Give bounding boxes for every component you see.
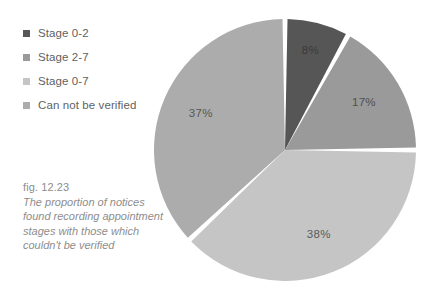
pie-slice-group	[154, 19, 416, 281]
legend-item-can-not-be-verified[interactable]: Can not be verified	[23, 93, 173, 117]
legend-swatch-icon	[23, 78, 30, 85]
pie-slice-label: 8%	[302, 44, 319, 56]
legend-item-label: Stage 2-7	[38, 51, 89, 63]
pie-chart-svg: 8%17%38%37%	[154, 19, 416, 281]
figure-panel: Stage 0-2 Stage 2-7 Stage 0-7 Can not be…	[0, 0, 435, 290]
chart-legend: Stage 0-2 Stage 2-7 Stage 0-7 Can not be…	[23, 21, 173, 117]
figure-number: fig. 12.23	[23, 180, 173, 194]
legend-swatch-icon	[23, 30, 30, 37]
figure-caption-text: The proportion of notices found recordin…	[23, 195, 173, 252]
figure-caption: fig. 12.23 The proportion of notices fou…	[23, 180, 173, 252]
pie-slice-label: 17%	[352, 96, 376, 108]
legend-swatch-icon	[23, 102, 30, 109]
legend-item-stage-2-7[interactable]: Stage 2-7	[23, 45, 173, 69]
legend-item-stage-0-7[interactable]: Stage 0-7	[23, 69, 173, 93]
legend-item-label: Stage 0-7	[38, 75, 89, 87]
legend-item-stage-0-2[interactable]: Stage 0-2	[23, 21, 173, 45]
legend-item-label: Can not be verified	[38, 99, 136, 111]
pie-slice-label: 38%	[307, 228, 331, 240]
legend-item-label: Stage 0-2	[38, 27, 89, 39]
legend-swatch-icon	[23, 54, 30, 61]
pie-chart: 8%17%38%37%	[154, 19, 416, 281]
pie-slice-label: 37%	[189, 107, 213, 119]
